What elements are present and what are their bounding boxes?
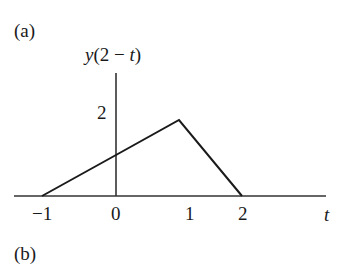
x-tick-0: 0	[111, 204, 121, 223]
x-tick-1: 1	[185, 204, 195, 223]
x-axis-variable: t	[324, 205, 329, 224]
x-tick-neg1: −1	[32, 204, 52, 223]
signal-line	[42, 120, 242, 196]
y-tick-2: 2	[97, 103, 107, 122]
x-tick-2: 2	[238, 204, 248, 223]
panel-label-b: (b)	[14, 244, 36, 263]
